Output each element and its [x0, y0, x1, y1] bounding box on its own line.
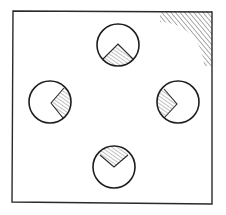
dial-top: [97, 24, 139, 66]
diagram-canvas: [0, 0, 226, 215]
figure: [0, 0, 226, 215]
corner-hatch: [160, 11, 212, 66]
dial-left: [29, 81, 72, 123]
dial-right: [156, 81, 199, 123]
dial-bottom: [93, 145, 135, 188]
